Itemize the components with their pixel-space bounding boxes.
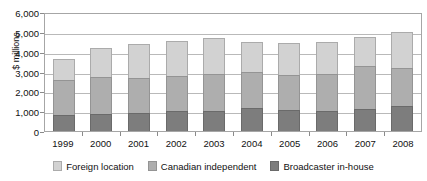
legend-label: Canadian independent (161, 161, 257, 172)
bar-group (45, 14, 421, 131)
bar-segment[interactable] (391, 32, 413, 68)
stacked-bar[interactable] (316, 14, 338, 131)
stacked-bar[interactable] (241, 14, 263, 131)
bar-segment[interactable] (166, 41, 188, 77)
legend-label: Broadcaster in-house (283, 161, 373, 172)
x-tick-mark (233, 132, 234, 136)
bar-segment[interactable] (278, 43, 300, 75)
stacked-bar[interactable] (354, 14, 376, 131)
y-tick-label: 0 (34, 127, 39, 138)
x-tick-label: 2003 (204, 138, 225, 149)
x-tick-mark (82, 132, 83, 136)
legend-swatch-icon (53, 161, 62, 171)
bar-segment[interactable] (316, 42, 338, 75)
bar-segment[interactable] (391, 106, 413, 131)
legend-item[interactable]: Canadian independent (148, 161, 257, 172)
stacked-bar[interactable] (53, 14, 75, 131)
bar-segment[interactable] (90, 48, 112, 78)
bar-segment[interactable] (354, 37, 376, 66)
bar-segment[interactable] (53, 115, 75, 131)
x-tick-mark (271, 132, 272, 136)
stacked-bar[interactable] (90, 14, 112, 131)
legend-swatch-icon (270, 161, 279, 171)
bar-segment[interactable] (128, 44, 150, 79)
x-tick-label: 2007 (355, 138, 376, 149)
plot-area (44, 13, 422, 132)
bar-segment[interactable] (166, 76, 188, 111)
bar-segment[interactable] (128, 113, 150, 131)
stacked-bar[interactable] (391, 14, 413, 131)
y-tick-label: 1,000 (15, 107, 39, 118)
x-tick-label: 2000 (90, 138, 111, 149)
legend-item[interactable]: Broadcaster in-house (270, 161, 373, 172)
stacked-bar[interactable] (128, 14, 150, 131)
y-axis-tick-labels: 6,0005,0004,0003,0002,0001,0000 (0, 0, 44, 145)
bar-segment[interactable] (391, 68, 413, 107)
chart-legend: Foreign locationCanadian independentBroa… (0, 158, 427, 174)
legend-label: Foreign location (66, 161, 134, 172)
legend-item[interactable]: Foreign location (53, 161, 134, 172)
y-tick-label: 4,000 (15, 47, 39, 58)
bar-segment[interactable] (241, 42, 263, 72)
bar-segment[interactable] (354, 109, 376, 131)
x-axis-tick-labels: 1999200020012002200320042005200620072008 (44, 132, 422, 152)
bar-segment[interactable] (203, 38, 225, 74)
x-tick-label: 2005 (279, 138, 300, 149)
y-tick-label: 3,000 (15, 67, 39, 78)
x-tick-label: 1999 (52, 138, 73, 149)
bar-segment[interactable] (53, 59, 75, 81)
chart-container: $ millions 6,0005,0004,0003,0002,0001,00… (0, 0, 427, 181)
bar-segment[interactable] (90, 77, 112, 114)
bar-segment[interactable] (203, 111, 225, 131)
bar-segment[interactable] (53, 80, 75, 115)
y-tick-label: 5,000 (15, 27, 39, 38)
bar-segment[interactable] (241, 72, 263, 109)
bar-segment[interactable] (316, 74, 338, 111)
stacked-bar[interactable] (278, 14, 300, 131)
stacked-bar[interactable] (166, 14, 188, 131)
bar-segment[interactable] (128, 78, 150, 113)
y-tick-label: 6,000 (15, 8, 39, 19)
x-tick-mark (384, 132, 385, 136)
x-tick-mark (309, 132, 310, 136)
x-tick-label: 2004 (241, 138, 262, 149)
x-tick-label: 2002 (166, 138, 187, 149)
bar-segment[interactable] (316, 111, 338, 131)
x-tick-label: 2001 (128, 138, 149, 149)
x-tick-mark (195, 132, 196, 136)
bar-segment[interactable] (203, 74, 225, 112)
x-tick-mark (157, 132, 158, 136)
y-tick-label: 2,000 (15, 87, 39, 98)
bar-segment[interactable] (241, 108, 263, 131)
stacked-bar[interactable] (203, 14, 225, 131)
bar-segment[interactable] (166, 111, 188, 131)
bar-segment[interactable] (278, 75, 300, 111)
bar-segment[interactable] (90, 114, 112, 131)
bar-segment[interactable] (354, 66, 376, 110)
x-tick-mark (346, 132, 347, 136)
bar-segment[interactable] (278, 110, 300, 131)
x-tick-label: 2006 (317, 138, 338, 149)
x-tick-mark (120, 132, 121, 136)
x-tick-label: 2008 (393, 138, 414, 149)
legend-swatch-icon (148, 161, 157, 171)
